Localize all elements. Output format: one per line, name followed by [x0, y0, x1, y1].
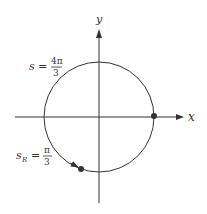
svg-text:3: 3: [53, 68, 59, 78]
svg-text:=: =: [38, 60, 47, 73]
svg-text:π: π: [44, 145, 50, 155]
end-point: [78, 166, 84, 172]
label-s-top: s = 4π 3: [29, 56, 63, 78]
start-point: [151, 113, 157, 119]
x-axis-arrow-icon: [176, 114, 184, 120]
svg-text:=: =: [31, 149, 40, 162]
svg-text:3: 3: [44, 157, 50, 167]
svg-text:4π: 4π: [51, 56, 63, 66]
y-axis-arrow-icon: [96, 29, 102, 38]
svg-text:R: R: [21, 156, 28, 164]
unit-circle-diagram: x y s = 4π 3 s R = π 3: [0, 0, 207, 214]
svg-text:s: s: [29, 60, 35, 73]
label-s-bottom: s R = π 3: [16, 145, 52, 167]
y-axis-label: y: [95, 13, 103, 26]
x-axis-label: x: [188, 110, 195, 124]
